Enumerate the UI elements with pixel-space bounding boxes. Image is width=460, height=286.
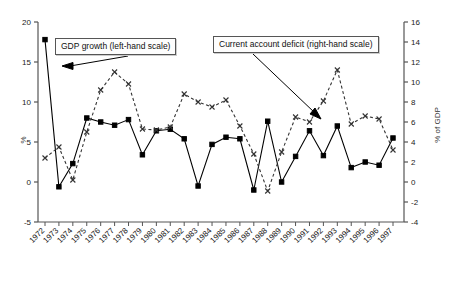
data-point-marker <box>391 136 395 140</box>
left-axis-tick-label: -5 <box>24 218 32 227</box>
left-axis-tick-label: 10 <box>22 98 31 107</box>
right-axis-tick-label: 2 <box>411 158 416 167</box>
data-point-marker <box>43 156 48 161</box>
annotation-arrow-gdp-head <box>62 63 73 70</box>
right-axis-tick-label: 12 <box>411 58 420 67</box>
legend-label-current-account-deficit: Current account deficit (right-hand scal… <box>213 36 379 53</box>
right-axis-tick-label: 14 <box>411 38 420 47</box>
data-point-marker <box>57 185 61 189</box>
data-point-marker <box>279 150 284 155</box>
right-axis-tick-label: 4 <box>411 138 416 147</box>
left-axis-title: % <box>19 136 28 143</box>
right-axis-title: % of GDP <box>433 107 442 143</box>
data-point-marker <box>321 99 326 104</box>
right-axis-tick-label: 8 <box>411 98 416 107</box>
data-point-marker <box>140 153 144 157</box>
data-point-marker <box>349 122 354 127</box>
x-axis-tick-label: 1997 <box>375 226 394 245</box>
series-line-current-account-deficit <box>45 70 393 191</box>
data-point-marker <box>196 100 201 105</box>
data-point-marker <box>126 117 130 121</box>
data-point-marker <box>363 160 367 164</box>
data-point-marker <box>391 148 396 153</box>
data-point-marker <box>112 70 117 75</box>
left-axis-tick-label: 15 <box>22 58 31 67</box>
data-point-marker <box>98 88 103 93</box>
data-point-marker <box>237 124 242 129</box>
data-point-marker <box>377 163 381 167</box>
data-point-marker <box>321 153 325 157</box>
right-axis-tick-label: 10 <box>411 78 420 87</box>
data-point-marker <box>210 142 214 146</box>
data-point-marker <box>293 115 298 120</box>
right-axis-tick-label: -2 <box>411 198 419 207</box>
data-point-marker <box>279 180 283 184</box>
right-axis-tick-label: 6 <box>411 118 416 127</box>
data-point-marker <box>126 82 131 87</box>
right-axis-tick-label: 0 <box>411 178 416 187</box>
right-axis-tick-label: 16 <box>411 18 420 27</box>
data-point-marker <box>56 145 61 150</box>
data-point-marker <box>224 135 228 139</box>
data-point-marker <box>252 188 256 192</box>
annotation-arrow-gdp-line <box>70 56 128 66</box>
data-point-marker <box>223 98 228 103</box>
left-axis-tick-label: 0 <box>27 178 32 187</box>
data-point-marker <box>265 189 270 194</box>
data-point-marker <box>307 120 312 125</box>
data-point-marker <box>210 105 215 110</box>
data-point-marker <box>112 123 116 127</box>
chart-figure: -505101520-4-20246810121416%% of GDP1972… <box>0 0 460 286</box>
right-axis-tick-label: -4 <box>411 218 419 227</box>
data-point-marker <box>335 124 339 128</box>
annotation-arrow-cad-line <box>253 54 315 113</box>
left-axis-tick-label: 20 <box>22 18 31 27</box>
data-point-marker <box>349 165 353 169</box>
data-point-marker <box>238 137 242 141</box>
data-point-marker <box>43 37 47 41</box>
data-point-marker <box>99 120 103 124</box>
data-point-marker <box>71 161 75 165</box>
data-point-marker <box>182 92 187 97</box>
legend-label-gdp-growth: GDP growth (left-hand scale) <box>55 38 176 55</box>
data-point-marker <box>85 116 89 120</box>
data-point-marker <box>307 129 311 133</box>
data-point-marker <box>196 184 200 188</box>
data-point-marker <box>266 119 270 123</box>
data-point-marker <box>251 152 256 157</box>
data-point-marker <box>182 137 186 141</box>
data-point-marker <box>293 154 297 158</box>
series-line-gdp-growth <box>45 40 393 190</box>
